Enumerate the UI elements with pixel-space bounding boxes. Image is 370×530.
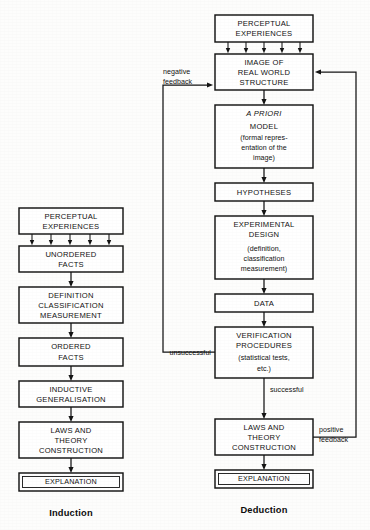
deduction-box-perceptual-experiences: PERCEPTUAL EXPERIENCES bbox=[215, 15, 313, 42]
induction-box-laws-and-theory-construction: LAWS AND THEORY CONSTRUCTION bbox=[19, 422, 123, 458]
box-line: DEFINITION bbox=[48, 291, 94, 300]
induction-box-perceptual-experiences: PERCEPTUAL EXPERIENCES bbox=[19, 208, 123, 234]
box-line: FACTS bbox=[58, 260, 84, 269]
label-negative-feedback-line1: negative bbox=[163, 68, 190, 76]
deduction-box-explanation: EXPLANATION bbox=[215, 470, 313, 488]
deduction-box-hypotheses: HYPOTHESES bbox=[215, 183, 313, 201]
box-line: DESIGN bbox=[249, 230, 280, 239]
box-line: HYPOTHESES bbox=[237, 188, 291, 197]
box-line: classification bbox=[244, 255, 285, 263]
deduction-multi-arrow-group bbox=[228, 42, 300, 51]
box-line: PROCEDURES bbox=[236, 341, 292, 350]
induction-box-unordered-facts: UNORDERED FACTS bbox=[19, 246, 123, 272]
box-line: EXPLANATION bbox=[238, 474, 290, 483]
box-line: CLASSIFICATION bbox=[38, 301, 103, 310]
box-line: (formal repres- bbox=[240, 134, 288, 142]
induction-box-definition-classification-measurement: DEFINITION CLASSIFICATION MEASUREMENT bbox=[19, 287, 123, 323]
box-line: (definition, bbox=[247, 245, 280, 253]
deduction-box-verification-procedures: VERIFICATION PROCEDURES (statistical tes… bbox=[215, 327, 313, 378]
induction-footer-label: Induction bbox=[49, 508, 93, 518]
box-line: REAL WORLD bbox=[238, 68, 291, 77]
box-line: ORDERED bbox=[51, 342, 91, 351]
box-line: INDUCTIVE bbox=[49, 385, 92, 394]
box-line: etc.) bbox=[257, 365, 271, 373]
label-positive-feedback-line1: positive bbox=[319, 426, 343, 434]
box-line: EXPERIENCES bbox=[43, 222, 100, 231]
box-line: EXPLANATION bbox=[45, 477, 97, 486]
deduction-box-a-priori-model: A PRIORI MODEL (formal repres- entation … bbox=[215, 105, 313, 168]
box-line: VERIFICATION bbox=[236, 331, 292, 340]
induction-box-ordered-facts: ORDERED FACTS bbox=[19, 338, 123, 366]
box-line: PERCEPTUAL bbox=[44, 212, 97, 221]
box-line: THEORY bbox=[54, 436, 87, 445]
box-line: STRUCTURE bbox=[239, 78, 288, 87]
box-line: GENERALISATION bbox=[36, 395, 106, 404]
induction-box-inductive-generalisation: INDUCTIVE GENERALISATION bbox=[19, 381, 123, 407]
box-line: IMAGE OF bbox=[244, 58, 283, 67]
label-positive-feedback-line2: feedback bbox=[319, 436, 349, 444]
box-line: A PRIORI bbox=[245, 109, 282, 118]
deduction-positive-feedback-path bbox=[313, 72, 356, 437]
box-line: UNORDERED bbox=[45, 250, 96, 259]
box-line: DATA bbox=[254, 299, 275, 308]
induction-box-explanation: EXPLANATION bbox=[19, 473, 123, 491]
deduction-box-data: DATA bbox=[215, 294, 313, 312]
deduction-box-image-of-real-world-structure: IMAGE OF REAL WORLD STRUCTURE bbox=[215, 54, 313, 90]
box-line: CONSTRUCTION bbox=[232, 443, 296, 452]
diagram-page: PERCEPTUAL EXPERIENCES UNORDERED FACTS D… bbox=[0, 0, 370, 530]
label-successful: successful bbox=[270, 386, 304, 394]
deduction-footer-label: Deduction bbox=[240, 505, 287, 515]
box-line: entation of the bbox=[241, 144, 287, 152]
box-line: LAWS AND bbox=[244, 423, 285, 432]
label-unsuccessful: unsuccessful bbox=[169, 349, 211, 357]
box-line: THEORY bbox=[247, 433, 280, 442]
label-negative-feedback-line2: feedback bbox=[163, 78, 193, 86]
flowchart-canvas: PERCEPTUAL EXPERIENCES UNORDERED FACTS D… bbox=[0, 0, 370, 530]
box-line: FACTS bbox=[58, 353, 84, 362]
deduction-negative-feedback-path bbox=[163, 85, 215, 352]
induction-multi-arrow-group bbox=[32, 234, 109, 243]
box-line: measurement) bbox=[241, 265, 287, 273]
box-line: EXPERIENCES bbox=[236, 29, 293, 38]
box-line: MEASUREMENT bbox=[40, 311, 102, 320]
box-line: EXPERIMENTAL bbox=[233, 220, 294, 229]
box-line: LAWS AND bbox=[51, 426, 92, 435]
deduction-box-experimental-design: EXPERIMENTAL DESIGN (definition, classif… bbox=[215, 216, 313, 279]
box-line: (statistical tests, bbox=[238, 354, 289, 362]
deduction-box-laws-and-theory-construction: LAWS AND THEORY CONSTRUCTION bbox=[215, 419, 313, 455]
box-line: CONSTRUCTION bbox=[39, 446, 103, 455]
box-line: PERCEPTUAL bbox=[237, 19, 290, 28]
box-line: image) bbox=[253, 154, 275, 162]
box-line: MODEL bbox=[250, 122, 278, 131]
